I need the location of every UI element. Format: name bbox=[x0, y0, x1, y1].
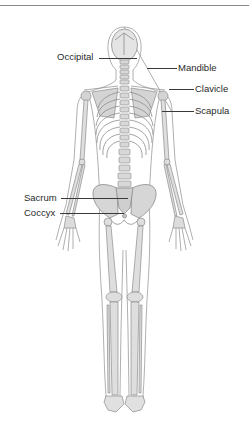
leader-line-clavicle bbox=[169, 89, 194, 90]
skull bbox=[112, 29, 138, 61]
legs bbox=[104, 218, 145, 395]
body-outline bbox=[56, 27, 193, 410]
label-scapula: Scapula bbox=[195, 106, 229, 116]
leader-line-occipital bbox=[99, 58, 137, 59]
leader-line-coccyx bbox=[60, 213, 124, 214]
label-sacrum: Sacrum bbox=[24, 193, 57, 203]
leader-line-scapula bbox=[162, 111, 194, 112]
cervical-vertebrae bbox=[120, 60, 129, 84]
label-mandible: Mandible bbox=[178, 63, 217, 73]
feet bbox=[104, 396, 145, 412]
leader-line-sacrum bbox=[61, 198, 128, 199]
label-occipital: Occipital bbox=[57, 52, 93, 62]
label-clavicle: Clavicle bbox=[195, 84, 228, 94]
spine bbox=[118, 86, 131, 187]
pelvis bbox=[93, 185, 156, 225]
leader-line-mandible bbox=[147, 68, 177, 69]
label-coccyx: Coccyx bbox=[24, 208, 55, 218]
sacrum-shape bbox=[116, 188, 133, 214]
